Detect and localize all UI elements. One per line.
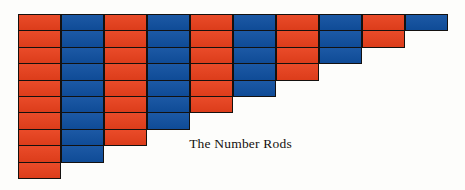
rod-segment: [104, 14, 147, 31]
rod-segment: [18, 47, 61, 64]
rod-segment: [18, 112, 61, 129]
rod-column: [147, 14, 190, 129]
rod-segment: [104, 80, 147, 97]
rod-segment: [190, 14, 233, 31]
rod-column: [104, 14, 147, 145]
rod-segment: [233, 63, 276, 80]
figure-caption-text: The Number Rods: [189, 136, 292, 152]
rod-segment: [104, 96, 147, 113]
rod-segment: [233, 14, 276, 31]
rod-column: [362, 14, 405, 47]
rod-segment: [18, 14, 61, 31]
rod-segment: [233, 30, 276, 47]
figure-caption: The Number Rods: [0, 136, 465, 152]
rod-segment: [147, 30, 190, 47]
rod-segment: [147, 63, 190, 80]
rod-segment: [233, 47, 276, 64]
rod-segment: [147, 96, 190, 113]
number-rods-figure: The Number Rods: [0, 0, 465, 190]
rod-segment: [18, 30, 61, 47]
rod-segment: [61, 80, 104, 97]
rod-segment: [190, 80, 233, 97]
rod-segment: [147, 80, 190, 97]
rod-segment: [104, 63, 147, 80]
rod-segment: [61, 96, 104, 113]
rod-segment: [18, 80, 61, 97]
rod-segment: [61, 63, 104, 80]
rod-segment: [18, 96, 61, 113]
rod-column: [18, 14, 61, 178]
rod-segment: [276, 47, 319, 64]
rod-segment: [276, 30, 319, 47]
rod-segment: [319, 14, 362, 31]
rod-column: [276, 14, 319, 80]
rod-segment: [190, 63, 233, 80]
rod-segment: [61, 30, 104, 47]
rod-segment: [147, 47, 190, 64]
rod-segment: [104, 112, 147, 129]
rod-segment: [61, 47, 104, 64]
rod-segment: [18, 63, 61, 80]
rod-segment: [190, 47, 233, 64]
rod-segment: [190, 30, 233, 47]
rods-staircase: [0, 0, 465, 190]
rod-segment: [147, 14, 190, 31]
rod-segment: [319, 30, 362, 47]
rod-segment: [233, 80, 276, 97]
rod-segment: [362, 30, 405, 47]
rod-segment: [276, 63, 319, 80]
rod-column: [405, 14, 448, 30]
rod-column: [190, 14, 233, 112]
rod-segment: [190, 96, 233, 113]
rod-segment: [276, 14, 319, 31]
rod-segment: [362, 14, 405, 31]
rod-segment: [147, 112, 190, 129]
rod-column: [233, 14, 276, 96]
rod-segment: [18, 162, 61, 179]
rod-column: [319, 14, 362, 63]
rod-segment: [104, 47, 147, 64]
rod-segment: [319, 47, 362, 64]
rod-segment: [61, 14, 104, 31]
rod-segment: [104, 30, 147, 47]
rod-segment: [405, 14, 448, 31]
rod-segment: [61, 112, 104, 129]
